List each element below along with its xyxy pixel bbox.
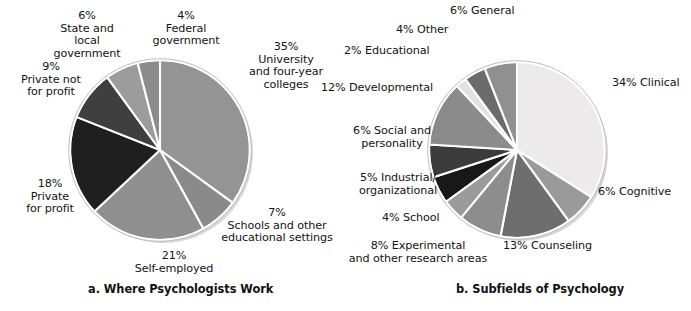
label-cognitive: 6% Cognitive <box>598 186 691 199</box>
label-general: 6% General <box>450 5 560 18</box>
label-industrial-organizational: 5% Industrial/ organizational <box>340 172 456 197</box>
label-self-employed: 21% Self-employed <box>118 250 230 275</box>
label-schools-and-other-educational-settings: 7% Schools and other educational setting… <box>212 207 342 245</box>
caption-panel-a: a. Where Psychologists Work <box>88 282 273 296</box>
panel-where-psychologists-work: 6% State and local government 4% Federal… <box>0 0 345 311</box>
panel-subfields-of-psychology: 6% General 4% Other 2% Educational 12% D… <box>345 0 691 311</box>
label-developmental: 12% Developmental <box>321 82 449 95</box>
label-federal-government: 4% Federal government <box>140 10 232 48</box>
label-state-and-local-government: 6% State and local government <box>28 10 146 60</box>
label-private-not-for-profit: 9% Private not for profit <box>4 61 98 99</box>
caption-panel-b: b. Subfields of Psychology <box>456 282 624 296</box>
label-social-and-personality: 6% Social and personality <box>336 125 448 150</box>
label-experimental-and-other-research-areas: 8% Experimental and other research areas <box>337 240 499 265</box>
label-private-for-profit: 18% Private for profit <box>13 178 87 216</box>
label-other: 4% Other <box>396 24 476 37</box>
label-educational: 2% Educational <box>344 45 448 58</box>
label-counseling: 13% Counseling <box>503 240 623 253</box>
psychology-pie-charts-figure: 6% State and local government 4% Federal… <box>0 0 691 311</box>
label-school: 4% School <box>382 212 470 225</box>
label-clinical: 34% Clinical <box>612 77 691 90</box>
